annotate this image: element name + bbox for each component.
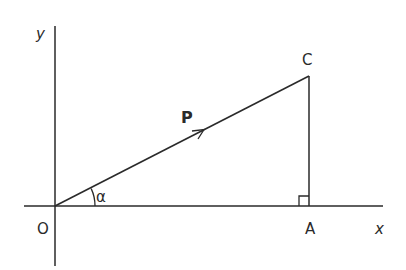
right-angle-marker [299, 196, 309, 206]
point-c-label: C [302, 51, 312, 69]
angle-alpha-label: α [96, 188, 106, 206]
vector-p-line [55, 76, 309, 206]
x-axis-label: x [374, 220, 384, 238]
origin-label: O [37, 220, 49, 238]
vector-diagram: y x O A C P α [0, 0, 406, 270]
angle-alpha-arc [91, 189, 95, 206]
point-a-label: A [305, 220, 316, 238]
vector-p-label: P [181, 108, 193, 127]
y-axis-label: y [35, 25, 46, 43]
